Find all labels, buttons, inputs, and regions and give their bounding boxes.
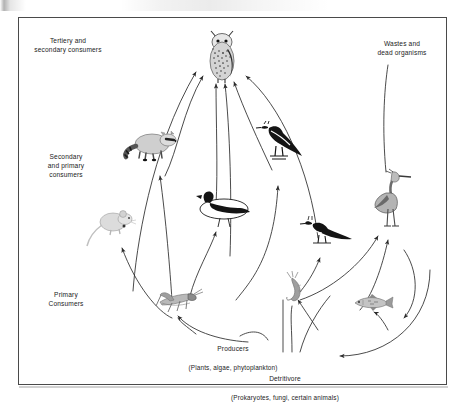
magpie-perch [270,156,288,159]
raccoon-mask [166,139,174,140]
mouse-tail [87,225,102,246]
magpie-crest [264,121,269,124]
fish-eye [358,301,360,303]
fish-ventral-fin [370,307,377,311]
fish-dorsal-fin [369,294,377,298]
grasshopper-antennae [194,289,203,295]
heron-head [391,172,399,182]
owl-body [210,42,234,80]
mouse-illustration [87,211,136,246]
label-secondary-consumers: Secondary and primary consumers [14,152,118,180]
label-detritivore-title: Detritivore [175,374,395,383]
label-tertiary-consumers: Tertiery and secondary consumers [8,36,128,54]
raccoon-illustration [125,131,176,161]
fish-body [355,298,387,308]
shrimp-tail [287,297,291,300]
raccoon-paw-b [152,159,156,161]
label-detritivore-subtitle: (Prokaryotes, fungi, certain animals) [175,393,395,402]
raccoon-nose [175,140,177,142]
duck-bill [196,195,202,199]
magpie-illustration [256,121,302,159]
magpie-beak [256,128,261,129]
mouse-ear [120,211,127,218]
shrimp-antennae [287,271,298,278]
magpie-head [261,126,268,129]
magpie-legs [275,146,283,156]
duck-illustration [196,192,250,227]
owl-eye-right [224,39,227,42]
heron-bill [399,176,411,177]
songbird-crest [308,216,312,220]
label-detritivore-block: Detritivore (Prokaryotes, fungi, certain… [175,365,395,408]
songbird-legs [318,235,326,243]
grasshopper-illustration [156,289,203,312]
mouse-eye [128,217,130,219]
songbird-head [305,221,312,225]
mouse-forepaw [123,225,126,228]
owl-eye-left [216,39,219,42]
songbird-beak [300,224,305,225]
heron-neck [390,181,392,194]
label-primary-consumers: Primary Consumers [14,290,118,308]
raccoon-paw-a [143,159,147,161]
fish-tail-fin [386,297,393,308]
label-producers-title: Producers [148,344,318,353]
fish-illustration [355,294,393,311]
heron-illustration [374,169,411,226]
songbird-illustration [300,216,352,243]
shrimp-illustration [287,271,302,301]
shrimp-body [291,278,300,301]
owl-illustration [210,31,234,83]
label-wastes-and-dead-organisms: Wastes and dead organisms [350,39,454,57]
diagram-page: Tertiery and secondary consumers Seconda… [0,0,464,408]
